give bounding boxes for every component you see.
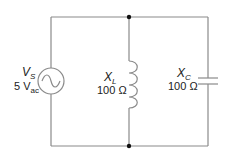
capacitor-value-label: 100 Ω xyxy=(168,81,198,92)
inductor-value-label: 100 Ω xyxy=(97,85,127,96)
top-junction-node xyxy=(127,15,131,19)
capacitor-value: 100 Ω xyxy=(168,80,198,92)
source-value-label: 5 Vac xyxy=(14,81,39,96)
source-value: 5 V xyxy=(14,80,31,92)
inductor-value: 100 Ω xyxy=(97,84,127,96)
source-symbol: V xyxy=(22,65,30,79)
bottom-junction-node xyxy=(127,144,131,148)
source-value-subscript: ac xyxy=(31,86,39,95)
inductor-icon xyxy=(129,61,137,108)
capacitor-icon xyxy=(198,78,218,84)
inductor-symbol: X xyxy=(104,70,112,84)
ac-source-icon xyxy=(38,68,64,94)
capacitor-symbol: X xyxy=(177,66,185,80)
